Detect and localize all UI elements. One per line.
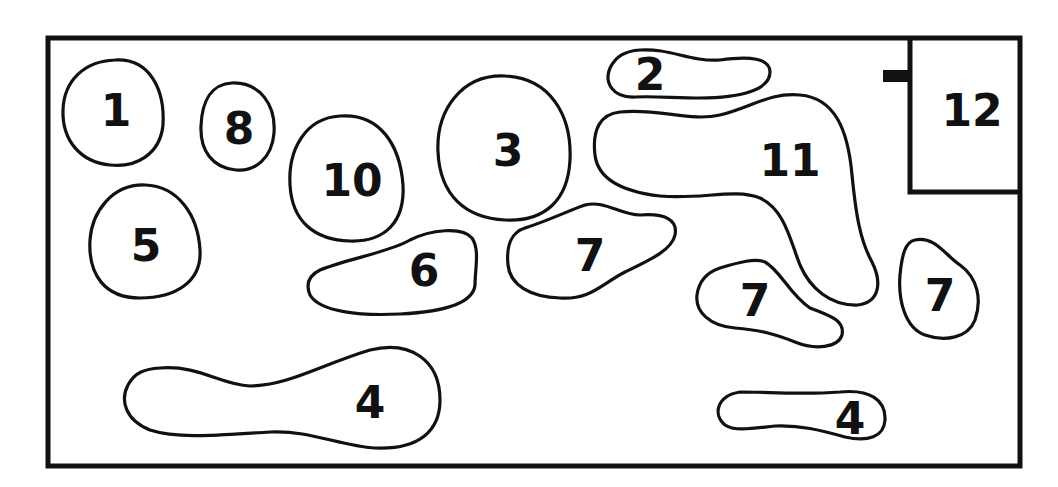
area-8-label: 8	[224, 103, 255, 154]
floor-plan-diagram: 12 1 8 10 3 2 11 5 6 7	[0, 0, 1058, 487]
area-1[interactable]: 1	[63, 60, 163, 166]
area-3[interactable]: 3	[438, 76, 570, 220]
room-12[interactable]: 12	[883, 38, 1020, 192]
area-7b-label: 7	[925, 270, 956, 321]
area-10-label: 10	[321, 155, 382, 206]
area-2-label: 2	[635, 49, 666, 100]
area-4a[interactable]: 4	[124, 347, 440, 448]
area-3-label: 3	[493, 125, 524, 176]
area-5[interactable]: 5	[90, 185, 200, 298]
area-7a-label: 7	[575, 230, 606, 281]
area-10[interactable]: 10	[290, 116, 403, 241]
room-12-label: 12	[941, 85, 1002, 136]
area-4b[interactable]: 4	[718, 392, 885, 444]
area-11-label: 11	[759, 135, 820, 186]
area-2[interactable]: 2	[608, 49, 770, 100]
area-9-label: 7	[740, 275, 771, 326]
area-4b-label: 4	[835, 393, 866, 444]
area-7b[interactable]: 7	[900, 239, 979, 338]
area-8[interactable]: 8	[201, 83, 274, 170]
area-1-label: 1	[101, 85, 132, 136]
door-tab	[883, 70, 910, 82]
area-4a-label: 4	[355, 377, 386, 428]
area-6[interactable]: 6	[308, 231, 477, 315]
area-6-label: 6	[409, 245, 440, 296]
area-5-label: 5	[131, 220, 162, 271]
